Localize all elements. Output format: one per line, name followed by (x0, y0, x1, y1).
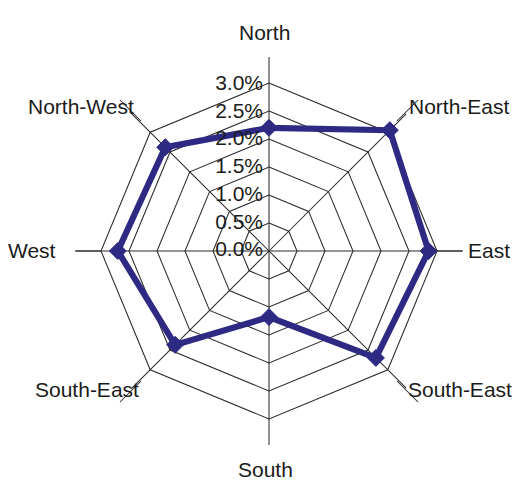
data-point-4 (261, 309, 278, 326)
data-point-0 (261, 119, 278, 136)
axis-label-south-east-left: South-East (35, 379, 139, 400)
axis-label-south: South (238, 459, 293, 480)
radial-tick-3-0: 3.0% (195, 72, 263, 93)
axis-spoke-5 (132, 251, 269, 388)
radial-tick-2-0: 2.0% (195, 127, 263, 148)
axis-label-west: West (8, 240, 55, 261)
radial-tick-0-0: 0.0% (195, 238, 263, 259)
axis-label-north-east: North-East (409, 96, 509, 117)
radial-tick-1-0: 1.0% (195, 183, 263, 204)
radar-chart-canvas (0, 0, 526, 501)
radial-tick-2-5: 2.5% (195, 100, 263, 121)
axis-spoke-3 (269, 251, 406, 388)
series-outline (118, 128, 429, 358)
axis-label-north-west: North-West (28, 96, 134, 117)
axis-label-east: East (468, 240, 510, 261)
axis-label-south-east-right: South-East (408, 379, 512, 400)
radial-tick-1-5: 1.5% (195, 155, 263, 176)
radar-chart: North North-East East South-East South S… (0, 0, 526, 501)
radar-series (118, 128, 429, 358)
axis-label-north: North (239, 22, 290, 43)
radial-tick-0-5: 0.5% (195, 211, 263, 232)
